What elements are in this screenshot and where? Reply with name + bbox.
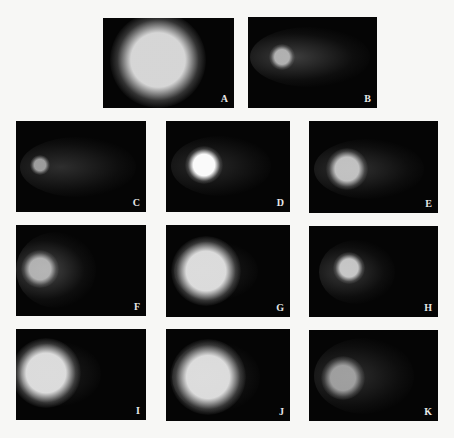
micrograph-panel-b: B [248, 17, 377, 108]
panel-label: C [133, 197, 140, 208]
panel-label: F [134, 301, 140, 312]
comet-head [185, 146, 223, 184]
micrograph-panel-h: H [309, 226, 438, 317]
micrograph-panel-f: F [16, 225, 146, 316]
micrograph-panel-i: I [16, 329, 146, 420]
panel-label: G [276, 302, 284, 313]
comet-head [110, 18, 206, 108]
micrograph-panel-k: K [309, 330, 438, 421]
panel-label: D [277, 197, 284, 208]
panel-label: J [279, 406, 284, 417]
comet-tail [250, 27, 370, 87]
micrograph-panel-d: D [166, 121, 290, 212]
comet-head [170, 339, 247, 416]
panel-label: A [221, 93, 228, 104]
panel-label: E [425, 198, 432, 209]
micrograph-panel-e: E [309, 121, 438, 213]
comet-head [333, 252, 365, 284]
panel-label: H [424, 302, 432, 313]
comet-head [30, 155, 49, 174]
comet-head [269, 44, 295, 70]
micrograph-panel-j: J [166, 329, 290, 421]
comet-head [21, 250, 59, 288]
panel-label: K [424, 406, 432, 417]
comet-head [171, 236, 241, 306]
comet-head [326, 148, 368, 190]
micrograph-panel-a: A [103, 18, 234, 108]
micrograph-panel-c: C [16, 121, 146, 212]
panel-label: I [136, 405, 140, 416]
panel-label: B [364, 93, 371, 104]
micrograph-panel-g: G [166, 225, 290, 317]
